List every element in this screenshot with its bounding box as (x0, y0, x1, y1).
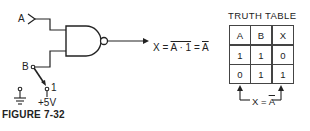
header-a: A (230, 26, 251, 46)
cell: 1 (230, 45, 251, 65)
nand-gate (66, 26, 101, 56)
switch-lever (34, 68, 44, 83)
nand-expression: A · 1 (171, 42, 192, 53)
figure-caption: FIGURE 7-32 (2, 109, 65, 120)
table-row: 0 1 1 (230, 65, 294, 84)
output-label: X (153, 42, 160, 53)
ground-terminal (18, 87, 22, 91)
cell: 1 (251, 45, 273, 65)
input-b-label: B (22, 62, 29, 72)
ground-icon (14, 98, 26, 104)
input-a-label: A (18, 14, 25, 24)
output-equation: X = A · 1 = A (153, 42, 209, 53)
truth-table-note: X = A (252, 96, 275, 107)
switch-contact-1 (45, 87, 49, 91)
truth-table-header-row: A B X (230, 26, 294, 46)
cell: 0 (272, 45, 294, 65)
supply-voltage-label: +5V (38, 98, 56, 108)
cell: 1 (272, 65, 294, 84)
cell: 0 (230, 65, 251, 84)
truth-table-title: TRUTH TABLE (228, 10, 296, 21)
arrow-up-icon (278, 85, 284, 91)
header-x: X (272, 26, 294, 46)
cell: 1 (251, 65, 273, 84)
nand-bubble (101, 38, 108, 45)
header-b: B (251, 26, 273, 46)
truth-table: A B X 1 1 0 0 1 1 (229, 25, 294, 84)
switch-position-label: 1 (51, 83, 57, 93)
table-row: 1 1 0 (230, 45, 294, 65)
output-arrow-icon (143, 38, 149, 44)
input-a-connector (28, 14, 35, 24)
arrow-up-icon (237, 85, 243, 91)
result-expression: A (202, 42, 209, 53)
